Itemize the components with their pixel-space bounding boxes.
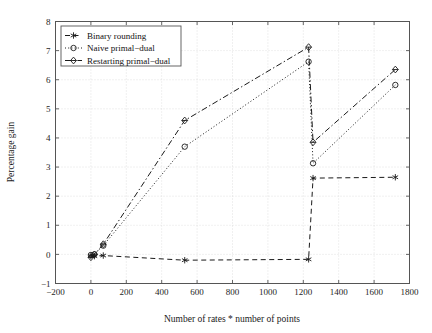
x-tick-label: 800 bbox=[226, 287, 240, 297]
x-tick-label: 1600 bbox=[365, 287, 384, 297]
legend-label: Naive primal−dual bbox=[87, 43, 155, 53]
x-tick-label: 200 bbox=[120, 287, 134, 297]
plot-canvas: −200020040060080010001200140016001800 −1… bbox=[0, 0, 432, 333]
x-tick-label: 1200 bbox=[294, 287, 313, 297]
y-tick-label: 5 bbox=[46, 104, 51, 114]
data-series-layer bbox=[88, 44, 398, 264]
y-tick-label: 4 bbox=[46, 133, 51, 143]
y-tick-label: 7 bbox=[46, 46, 51, 56]
x-tick-label: 400 bbox=[155, 287, 169, 297]
chart-legend: Binary roundingNaive primal−dualRestarti… bbox=[61, 26, 181, 66]
y-tick-label: 8 bbox=[46, 17, 51, 27]
y-tick-label: 6 bbox=[46, 75, 51, 85]
series-2 bbox=[88, 44, 398, 261]
x-tick-label: 0 bbox=[89, 287, 94, 297]
y-tick-label: 3 bbox=[46, 162, 51, 172]
star-marker bbox=[393, 174, 399, 180]
series-1 bbox=[88, 59, 398, 258]
y-axis-title: Percentage gain bbox=[6, 122, 16, 183]
diamond-marker bbox=[310, 139, 316, 146]
x-tick-label: 1800 bbox=[401, 287, 420, 297]
x-tick-label: 600 bbox=[190, 287, 204, 297]
series-0 bbox=[88, 174, 398, 263]
y-tick-label: 1 bbox=[46, 220, 51, 230]
legend-label: Binary rounding bbox=[87, 31, 147, 41]
y-tick-label: −1 bbox=[41, 279, 51, 289]
x-tick-label: 1000 bbox=[259, 287, 278, 297]
y-tick-label: 0 bbox=[46, 250, 51, 260]
x-axis-tick-labels: −200020040060080010001200140016001800 bbox=[46, 287, 419, 297]
legend-label: Restarting primal−dual bbox=[87, 56, 171, 66]
x-axis-title: Number of rates * number of points bbox=[164, 314, 300, 324]
y-axis-tick-labels: −1012345678 bbox=[41, 17, 51, 289]
y-tick-label: 2 bbox=[46, 191, 51, 201]
x-tick-label: 1400 bbox=[330, 287, 349, 297]
chart-figure: −200020040060080010001200140016001800 −1… bbox=[0, 0, 432, 333]
